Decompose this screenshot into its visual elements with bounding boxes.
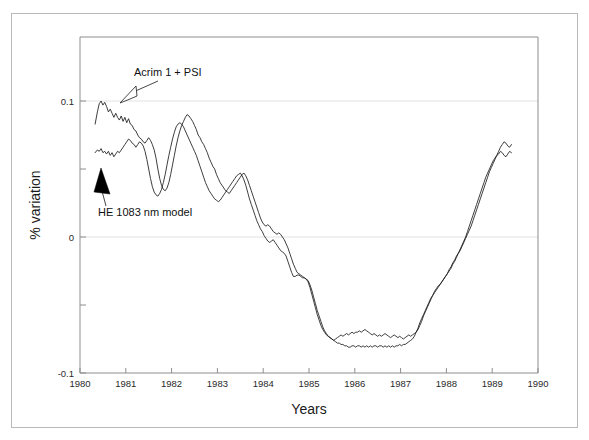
- x-tick-label: 1985: [298, 378, 319, 389]
- hollow-arrow-down-left-icon: [120, 86, 137, 103]
- annotation-acrim-label: Acrim 1 + PSI: [134, 66, 202, 78]
- x-tick-label: 1990: [527, 378, 548, 389]
- figure-canvas: 1980198119821983198419851986198719881989…: [0, 0, 589, 440]
- solid-arrow-up-icon: [94, 168, 110, 194]
- tick-label-group: 1980198119821983198419851986198719881989…: [58, 96, 549, 390]
- x-tick-label: 1989: [482, 378, 503, 389]
- x-tick-label: 1984: [253, 378, 274, 389]
- y-axis-title: % variation: [27, 170, 43, 239]
- x-tick-label: 1981: [115, 378, 136, 389]
- x-axis-title: Years: [291, 401, 326, 417]
- x-tick-label: 1988: [436, 378, 457, 389]
- x-tick-label: 1980: [69, 378, 90, 389]
- y-tick-label: 0.1: [61, 96, 74, 107]
- annotation-acrim: Acrim 1 + PSI: [120, 66, 202, 103]
- series-line-1: [95, 101, 511, 340]
- series-group: [95, 101, 511, 347]
- x-tick-label: 1987: [390, 378, 411, 389]
- chart-plot-area: 1980198119821983198419851986198719881989…: [0, 0, 589, 440]
- series-line-2: [95, 123, 511, 347]
- y-tick-label: -0.1: [58, 368, 74, 379]
- y-tick-label: 0: [69, 232, 74, 243]
- x-tick-label: 1983: [207, 378, 228, 389]
- annotation-model-label: HE 1083 nm model: [98, 206, 192, 218]
- axis-group: [80, 37, 538, 373]
- x-tick-label: 1986: [344, 378, 365, 389]
- annotation-model: HE 1083 nm model: [94, 168, 192, 218]
- x-tick-label: 1982: [161, 378, 182, 389]
